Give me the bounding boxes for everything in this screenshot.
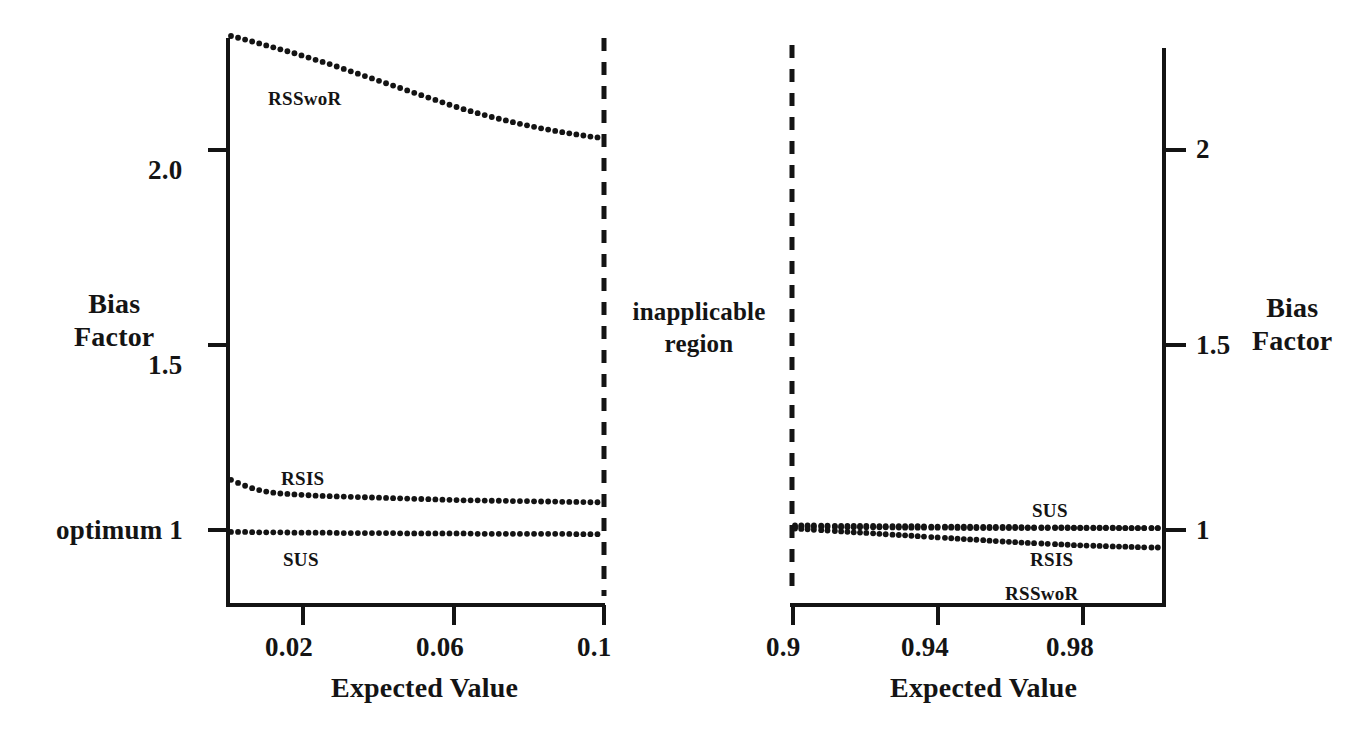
data-point [935, 534, 941, 540]
data-point [552, 531, 558, 537]
data-point [1103, 543, 1109, 549]
data-point [475, 497, 481, 503]
data-point [503, 118, 509, 124]
data-point [1006, 525, 1012, 531]
right-x-axis-title: Expected Value [890, 671, 1077, 704]
data-point [263, 489, 269, 495]
data-point [1141, 544, 1147, 550]
data-point [908, 533, 914, 539]
data-point [531, 124, 537, 130]
inapplicable-region-note-line2: region [631, 328, 767, 360]
data-point [425, 496, 431, 502]
data-point [425, 95, 431, 101]
data-point [299, 492, 305, 498]
data-point [1110, 525, 1116, 531]
data-point [397, 530, 403, 536]
data-point [545, 127, 551, 133]
data-point [948, 535, 954, 541]
data-point [510, 531, 516, 537]
data-point [432, 531, 438, 537]
data-point [573, 499, 579, 505]
data-point [1122, 544, 1128, 550]
data-point [284, 48, 290, 54]
data-point [863, 530, 869, 536]
data-point [792, 526, 798, 532]
data-point [447, 102, 453, 108]
right-y-axis-title-line2: Factor [1252, 324, 1332, 357]
right-y-ticklabel-1: 1 [1196, 515, 1210, 547]
data-point [510, 498, 516, 504]
data-point [461, 106, 467, 112]
data-point [1135, 544, 1141, 550]
data-point [454, 497, 460, 503]
left-x-ticklabel-0.06: 0.06 [416, 632, 464, 664]
data-point [327, 530, 333, 536]
data-point [425, 531, 431, 537]
data-point [580, 531, 586, 537]
left-x-ticklabel-0.02: 0.02 [265, 632, 313, 664]
data-point [1084, 525, 1090, 531]
data-point [320, 493, 326, 499]
data-point [1090, 543, 1096, 549]
data-point [942, 535, 948, 541]
data-point [228, 529, 234, 535]
data-point [580, 499, 586, 505]
data-point [1110, 543, 1116, 549]
data-point [1039, 541, 1045, 547]
data-point [320, 530, 326, 536]
data-point [404, 87, 410, 93]
data-point [921, 534, 927, 540]
data-point [440, 531, 446, 537]
data-point [376, 78, 382, 84]
data-point [948, 525, 954, 531]
data-point [1019, 525, 1025, 531]
data-point [404, 531, 410, 537]
data-point [524, 531, 530, 537]
data-point [980, 525, 986, 531]
data-point [877, 524, 883, 530]
data-point [517, 531, 523, 537]
inapplicable-region-note-line1: inapplicable [631, 296, 767, 328]
data-point [942, 525, 948, 531]
data-point [496, 531, 502, 537]
data-point [277, 529, 283, 535]
data-point [1031, 540, 1037, 546]
data-point [404, 496, 410, 502]
data-point [1155, 545, 1161, 551]
data-point [566, 130, 572, 136]
data-point [961, 525, 967, 531]
data-point [320, 59, 326, 65]
data-point [1012, 525, 1018, 531]
data-point [306, 55, 312, 61]
data-point [383, 80, 389, 86]
data-point [334, 64, 340, 70]
data-point [559, 531, 565, 537]
data-point [538, 499, 544, 505]
data-point [292, 491, 298, 497]
data-point [967, 525, 973, 531]
right-series-label-rsswor: RSSwoR [1005, 583, 1079, 605]
data-point [1129, 525, 1135, 531]
data-point [496, 116, 502, 122]
data-point [1135, 525, 1141, 531]
data-point [376, 495, 382, 501]
data-point [857, 524, 863, 530]
left-series-label-sus: SUS [283, 549, 319, 571]
data-point [390, 495, 396, 501]
data-point [538, 531, 544, 537]
data-point [890, 532, 896, 538]
data-point [334, 494, 340, 500]
data-point [432, 497, 438, 503]
data-point [461, 531, 467, 537]
data-point [1000, 539, 1006, 545]
data-point [987, 538, 993, 544]
data-point [376, 530, 382, 536]
data-point [883, 531, 889, 537]
data-point [496, 498, 502, 504]
data-point [1129, 544, 1135, 550]
data-point [489, 498, 495, 504]
data-point [432, 97, 438, 103]
data-point [341, 66, 347, 72]
data-point [489, 531, 495, 537]
data-point [928, 534, 934, 540]
